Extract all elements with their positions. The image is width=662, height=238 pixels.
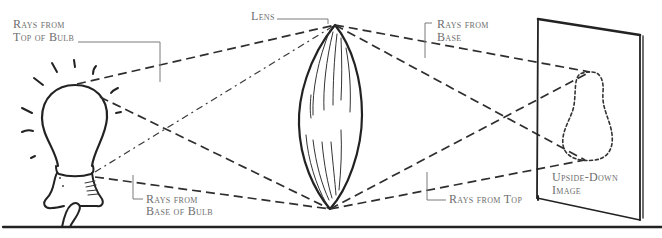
ray-base-to-image-top-a [335, 25, 590, 72]
lens-image-diagram: Rays from Top of Bulb Lens Rays from Bas… [0, 0, 662, 238]
leader-base-of-bulb [133, 175, 143, 199]
label-rays-from-base-line1: Rays from [437, 17, 489, 31]
leader-rays-from-top [427, 172, 446, 200]
label-rays-top-of-bulb-line1: Rays from [13, 17, 65, 31]
ray-base-to-lens-top [95, 25, 335, 172]
leader-lens [277, 19, 328, 24]
ray-top-to-lens-top [77, 25, 335, 84]
rays-lens-to-screen [330, 25, 590, 209]
rays-bulb-to-lens [77, 25, 335, 209]
leader-rays-from-base [425, 23, 432, 58]
ray-top-to-lens-bottom [100, 97, 330, 209]
label-rays-base-of-bulb-line2: Base of Bulb [146, 204, 213, 218]
label-rays-from-top: Rays from Top [449, 192, 522, 206]
leader-top-of-bulb [78, 42, 160, 82]
label-lens: Lens [251, 9, 275, 23]
label-rays-top-of-bulb-line2: Top of Bulb [13, 30, 74, 44]
label-upside-down-image-line2: Image [552, 183, 581, 197]
label-rays-from-base-line2: Base [437, 30, 461, 44]
inverted-bulb-image [563, 72, 613, 160]
lens-icon [299, 25, 362, 209]
label-upside-down-image-line1: Upside-Down [552, 170, 618, 184]
light-bulb-icon [42, 85, 107, 227]
